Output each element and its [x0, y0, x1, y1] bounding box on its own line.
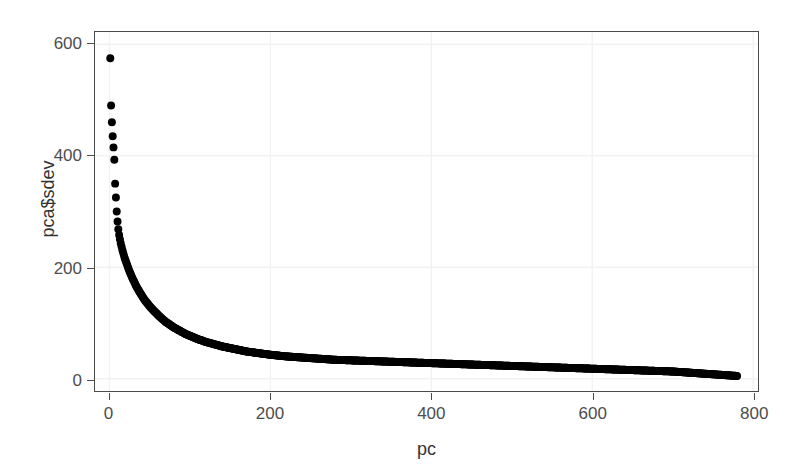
data-point: [114, 218, 122, 226]
data-point: [111, 180, 119, 188]
data-point: [113, 208, 121, 216]
y-tick-mark: [87, 155, 94, 156]
data-point: [108, 118, 116, 126]
x-tick-mark: [431, 393, 432, 400]
x-tick-mark: [754, 393, 755, 400]
y-axis-title: pca$sdev: [39, 129, 57, 269]
data-point: [110, 143, 118, 151]
y-tick-label: 600: [32, 35, 82, 52]
data-points-layer: [95, 32, 758, 391]
scree-plot-figure: 02004006008000200400600 pc pca$sdev: [0, 0, 797, 473]
data-point: [106, 54, 114, 62]
y-tick-mark: [87, 380, 94, 381]
x-tick-label: 400: [417, 405, 445, 422]
y-tick-label: 0: [32, 371, 82, 388]
x-axis-title: pc: [94, 440, 759, 458]
x-tick-mark: [109, 393, 110, 400]
data-point: [733, 372, 741, 380]
plot-panel: [94, 31, 759, 392]
data-point: [112, 194, 120, 202]
x-tick-label: 800: [740, 405, 768, 422]
data-point: [109, 132, 117, 140]
x-tick-mark: [593, 393, 594, 400]
x-tick-label: 0: [104, 405, 113, 422]
y-tick-mark: [87, 43, 94, 44]
y-tick-mark: [87, 268, 94, 269]
x-tick-label: 600: [579, 405, 607, 422]
screenshot-root: 02004006008000200400600 pc pca$sdev: [0, 0, 797, 473]
data-point: [110, 156, 118, 164]
x-tick-label: 200: [256, 405, 284, 422]
x-tick-mark: [270, 393, 271, 400]
data-point: [107, 102, 115, 110]
